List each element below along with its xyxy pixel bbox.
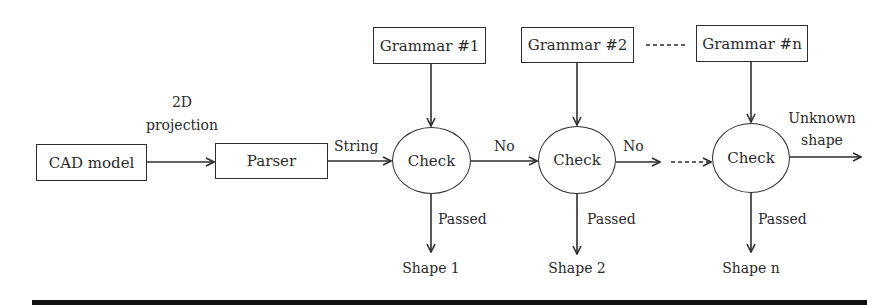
passed-label-1: Passed xyxy=(438,212,487,226)
check-2-node: Check xyxy=(538,126,616,194)
grammar-check-flowchart: CAD model Parser Grammar #1 Grammar #2 G… xyxy=(0,0,896,305)
check-1-node: Check xyxy=(392,127,471,194)
shape-1-output: Shape 1 xyxy=(402,261,460,275)
check-n-node: Check xyxy=(712,123,790,193)
projection-label-line2: projection xyxy=(146,118,218,132)
check-1-label: Check xyxy=(408,152,456,170)
check-n-label: Check xyxy=(727,149,775,167)
bottom-rule xyxy=(32,300,867,305)
shape-n-output: Shape n xyxy=(722,261,780,275)
unknown-shape-label-line2: shape xyxy=(801,133,843,147)
cad-model-box: CAD model xyxy=(36,144,147,181)
grammar-2-box: Grammar #2 xyxy=(521,27,634,63)
unknown-shape-label-line1: Unknown xyxy=(788,111,856,125)
grammar-1-box: Grammar #1 xyxy=(373,27,486,64)
shape-2-output: Shape 2 xyxy=(548,261,606,275)
grammar-n-box: Grammar #n xyxy=(696,25,808,62)
grammar-1-label: Grammar #1 xyxy=(380,37,480,55)
passed-label-n: Passed xyxy=(758,212,807,226)
grammar-n-label: Grammar #n xyxy=(702,35,802,53)
passed-label-2: Passed xyxy=(587,212,636,226)
string-label: String xyxy=(334,139,378,153)
parser-label: Parser xyxy=(247,152,296,170)
check-2-label: Check xyxy=(553,151,601,169)
no-label-1: No xyxy=(494,139,515,153)
projection-label-line1: 2D xyxy=(172,95,192,109)
parser-box: Parser xyxy=(215,143,328,179)
no-label-2: No xyxy=(623,139,644,153)
cad-model-label: CAD model xyxy=(49,154,135,172)
grammar-2-label: Grammar #2 xyxy=(528,36,628,54)
